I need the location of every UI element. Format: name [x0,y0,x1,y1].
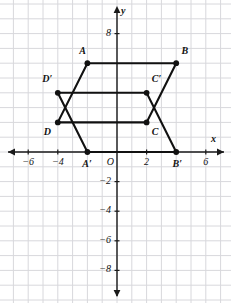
vertex-label-B: B [181,45,188,56]
y-tick-label-8: 8 [85,27,111,38]
vertex-label-Aprime: A′ [82,158,91,169]
plot-layer [0,0,231,303]
origin-label: O [100,156,114,167]
y-tick-label-neg6: −6 [85,234,111,245]
y-tick-label-neg2: −2 [85,175,111,186]
vertex-label-Dprime: D′ [42,73,52,84]
vertex-label-A: A [79,45,86,56]
coordinate-plane-figure: x y −6−4268−2−4−6−8O ABCDA′B′C′D′ [0,0,231,303]
vertex-label-D: D [44,126,51,137]
y-axis-label: y [121,5,125,16]
x-axis-label: x [211,133,216,144]
x-tick-label-2: 2 [133,156,161,167]
y-tick-label-neg4: −4 [85,204,111,215]
vertex-label-Cprime: C′ [152,73,161,84]
vertex-label-C: C [152,126,159,137]
x-tick-label-6: 6 [192,156,220,167]
x-tick-label-neg4: −4 [44,156,72,167]
y-tick-label-neg8: −8 [85,263,111,274]
x-tick-label-neg6: −6 [14,156,42,167]
vertex-label-Bprime: B′ [173,158,182,169]
